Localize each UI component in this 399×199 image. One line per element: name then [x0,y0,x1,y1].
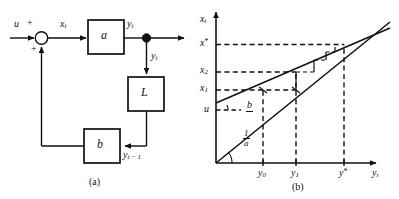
ytick-x1-subscript: 1 [204,86,208,94]
x-axis-subscript: t [376,171,378,179]
xtick-y1: y1 [291,168,299,179]
ytick-x2-subscript: 2 [204,68,208,76]
signal-label-xt: xt [60,19,66,30]
output-yt-subscript: t [131,22,133,30]
ytick-x-star-superscript: * [204,37,208,46]
ytick-x1: x1 [200,83,208,94]
ytick-x-star: x* [200,38,208,48]
panel-a-caption: (a) [89,176,100,187]
x-axis-label: yt [372,168,378,179]
block-b-label: b [97,138,103,150]
y-axis-label: xt [200,14,206,25]
xtick-y-star-superscript: * [343,167,347,176]
ytick-u: u [204,104,209,114]
signal-xt-subscript: t [64,22,66,30]
xtick-y1-subscript: 1 [295,171,299,179]
slope-denominator: a [243,139,250,148]
xtick-y0-subscript: 0 [262,171,266,179]
sign-plus-bottom: + [31,44,37,54]
branch-label-yt: yt [151,51,157,62]
y-axis-subscript: t [204,17,206,25]
slope-b-angle-arc [227,105,228,110]
input-label-u: u [14,19,19,29]
xtick-y-star: y* [339,168,347,178]
ytick-x2: x2 [200,65,208,76]
output-label-yt: yt [127,19,133,30]
xtick-y0: y0 [258,168,266,179]
delayed-label-yt-1: yt − 1 [123,150,141,161]
branch-yt-subscript: t [155,54,157,62]
summing-junction [35,32,47,44]
block-a-label: a [101,29,107,41]
block-L-label: L [141,86,148,98]
figure-container: u + + xt a yt yt L b yt − 1 (a) xt x* x2… [0,0,399,199]
sign-plus-top: + [27,18,33,28]
delayed-yt-subscript: t − 1 [127,153,141,161]
panel-b-caption: (b) [292,181,304,192]
slope-one-over-a-annotation: 1 a [243,129,250,149]
slope-b-annotation: b [246,100,253,112]
